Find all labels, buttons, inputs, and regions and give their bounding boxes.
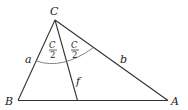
half-angle-right-denominator: 2 bbox=[72, 50, 77, 60]
side-label-f: f bbox=[75, 75, 82, 88]
side-label-a: a bbox=[25, 53, 32, 66]
side-b bbox=[55, 20, 168, 101]
half-angle-left-denominator: 2 bbox=[50, 50, 55, 60]
vertex-label-C: C bbox=[50, 5, 59, 18]
side-a bbox=[18, 20, 55, 101]
side-label-b: b bbox=[120, 53, 127, 66]
vertex-label-B: B bbox=[4, 95, 13, 108]
vertex-label-A: A bbox=[170, 95, 179, 108]
bisector-f bbox=[55, 20, 78, 101]
triangle-diagram: C B A a b f C 2 C 2 bbox=[0, 0, 188, 110]
half-angle-right-numerator: C bbox=[71, 40, 78, 50]
half-angle-left-numerator: C bbox=[49, 40, 56, 50]
